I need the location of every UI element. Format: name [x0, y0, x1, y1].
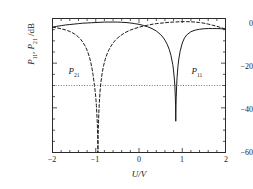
data-curves-group — [53, 22, 226, 153]
plot-canvas — [0, 0, 253, 189]
figure-container: P11, P21 /dB U/V 0 −20 −40 −60 −2 −1 0 1… — [0, 0, 253, 189]
curve-p21 — [53, 22, 226, 153]
